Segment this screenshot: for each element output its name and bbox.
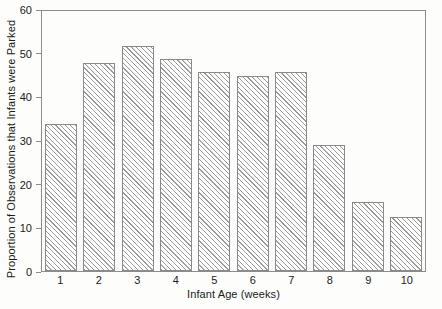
x-tick-label: 9 — [349, 274, 388, 286]
y-tick-label: 20 — [20, 177, 32, 193]
y-tick-label: 40 — [20, 89, 32, 105]
y-tick-label: 10 — [20, 220, 32, 236]
bar[interactable] — [390, 217, 422, 271]
x-tick-label: 3 — [118, 274, 157, 286]
bar[interactable] — [83, 63, 115, 271]
x-axis-tick-labels: 12345678910 — [41, 274, 426, 286]
bar[interactable] — [275, 72, 307, 271]
x-tick-label: 7 — [272, 274, 311, 286]
bar-slot — [310, 11, 348, 271]
y-tick-mark — [36, 10, 41, 11]
y-axis-title: Proportion of Observations that Infants … — [2, 11, 20, 287]
bar[interactable] — [160, 59, 192, 271]
x-tick-label: 6 — [234, 274, 273, 286]
y-tick-mark — [36, 272, 41, 273]
bar[interactable] — [122, 46, 154, 271]
y-tick-mark — [36, 97, 41, 98]
plot-area — [41, 10, 426, 272]
bar-slot — [272, 11, 310, 271]
x-tick-label: 5 — [195, 274, 234, 286]
x-tick-label: 1 — [41, 274, 80, 286]
bars-container — [42, 11, 425, 271]
bar-slot — [80, 11, 118, 271]
x-tick-label: 10 — [388, 274, 427, 286]
bar-slot — [233, 11, 271, 271]
y-tick-mark — [36, 141, 41, 142]
bar-slot — [157, 11, 195, 271]
x-tick-label: 4 — [157, 274, 196, 286]
y-tick-label: 0 — [26, 264, 32, 280]
bar-slot — [119, 11, 157, 271]
y-tick-label: 30 — [20, 133, 32, 149]
bar[interactable] — [45, 124, 77, 271]
bar[interactable] — [352, 202, 384, 271]
bar-slot — [387, 11, 425, 271]
bar[interactable] — [313, 145, 345, 271]
y-tick-mark — [36, 228, 41, 229]
bar-slot — [195, 11, 233, 271]
bar-slot — [42, 11, 80, 271]
x-tick-label: 2 — [80, 274, 119, 286]
y-tick-mark — [36, 184, 41, 185]
y-tick-label: 60 — [20, 2, 32, 18]
y-tick-label: 50 — [20, 46, 32, 62]
bar[interactable] — [237, 76, 269, 271]
y-tick-mark — [36, 53, 41, 54]
bar[interactable] — [198, 72, 230, 271]
bar-chart-figure: Proportion of Observations that Infants … — [0, 0, 442, 309]
x-axis-title: Infant Age (weeks) — [41, 288, 426, 300]
bar-slot — [348, 11, 386, 271]
x-tick-label: 8 — [311, 274, 350, 286]
